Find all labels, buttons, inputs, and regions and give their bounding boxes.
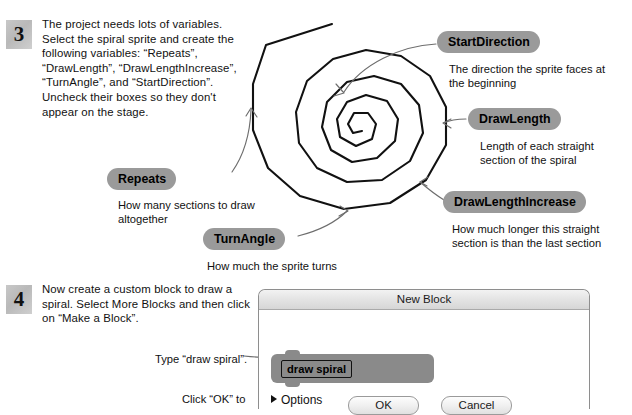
- step-number-badge-3: 3: [6, 20, 32, 49]
- callout-label-repeats: Repeats: [107, 168, 176, 190]
- options-label: Options: [281, 393, 322, 407]
- custom-block-prototype[interactable]: draw spiral: [271, 354, 434, 383]
- callout-label-drawlengthincrease: DrawLengthIncrease: [443, 191, 586, 213]
- callout-caption-drawlengthincrease: How much longer this straight section is…: [452, 222, 632, 250]
- dialog-body: draw spiral Options: [259, 310, 589, 409]
- callout-caption-turnangle: How much the sprite turns: [207, 259, 397, 273]
- dialog-title: New Block: [259, 290, 589, 310]
- options-disclosure[interactable]: Options: [271, 393, 322, 407]
- triangle-right-icon: [271, 395, 277, 403]
- callout-caption-drawlength: Length of each straight section of the s…: [480, 139, 630, 167]
- callout-caption-startdirection: The direction the sprite faces at the be…: [449, 62, 619, 90]
- callout-label-turnangle: TurnAngle: [203, 228, 285, 250]
- block-notch-top-icon: [285, 350, 300, 358]
- step-number-badge-4: 4: [6, 285, 32, 314]
- step-instruction-4: Now create a custom block to draw a spir…: [42, 282, 257, 326]
- callout-label-drawlength: DrawLength: [468, 108, 561, 130]
- block-name-input[interactable]: draw spiral: [281, 360, 352, 378]
- ok-button[interactable]: OK: [348, 396, 419, 415]
- step-instruction-3: The project needs lots of variables. Sel…: [42, 17, 242, 119]
- callout-label-startdirection: StartDirection: [437, 31, 540, 53]
- callout-caption-repeats: How many sections to draw altogether: [118, 198, 268, 226]
- annotation-click-ok-hint: Click “OK” to: [182, 392, 245, 406]
- block-notch-bottom-icon: [285, 379, 300, 387]
- annotation-type-hint: Type “draw spiral”.: [155, 352, 247, 366]
- new-block-dialog: New Block draw spiral Options: [258, 289, 590, 409]
- cancel-button[interactable]: Cancel: [441, 396, 512, 415]
